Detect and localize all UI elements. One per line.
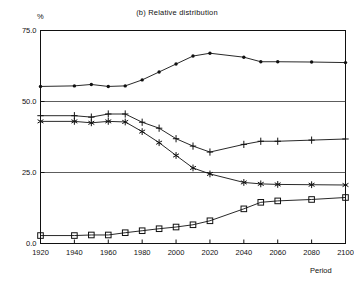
x-tick-label: 1980: [134, 248, 151, 257]
x-tick-label: 2020: [202, 248, 219, 257]
x-tick-label: 2080: [303, 248, 320, 257]
x-tick-label: 1960: [100, 248, 117, 257]
x-tick-label: 2100: [337, 248, 354, 257]
plot-area: 0.025.050.075.01920194019601980200020202…: [0, 0, 354, 285]
x-tick-label: 1940: [66, 248, 83, 257]
chart-figure: (b) Relative distribution % Period 0.025…: [0, 0, 354, 285]
y-tick-label: 50.0: [22, 97, 37, 106]
x-tick-label: 1920: [32, 248, 49, 257]
x-tick-label: 2040: [235, 248, 252, 257]
x-tick-label: 2060: [269, 248, 286, 257]
y-tick-label: 25.0: [22, 168, 37, 177]
x-tick-label: 2000: [168, 248, 185, 257]
y-tick-label: 75.0: [22, 26, 37, 35]
